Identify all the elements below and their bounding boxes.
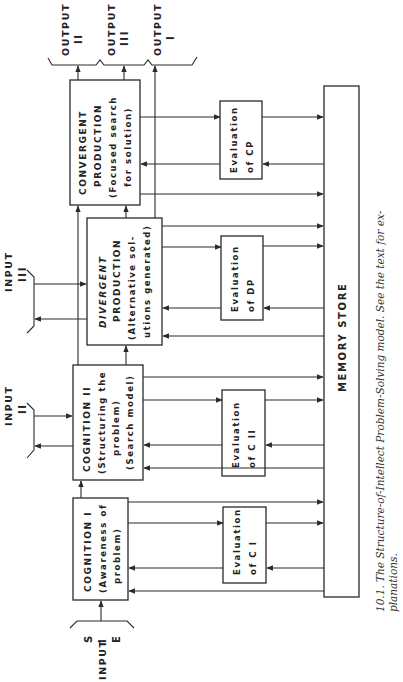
svg-text:E: E [111,635,122,643]
output-iii-label: OUTPUT III [106,3,130,56]
svg-text:CONVERGENT: CONVERGENT [78,110,88,195]
output-ii-label: OUTPUT II [60,3,84,56]
svg-text:Evaluation: Evaluation [229,106,239,173]
svg-text:II: II [17,403,28,414]
svg-text:II: II [73,33,84,44]
input-ii-bracket: INPUT II [3,385,73,458]
svg-text:III: III [119,30,130,46]
evaluation-cp-box: Evaluation of CP [220,101,262,179]
divergent-production-box: DIVERGENT PRODUCTION (Alternative sol- u… [87,218,162,345]
svg-text:(Search model): (Search model) [125,375,135,471]
svg-text:10.1. The Structure-of-Intelle: 10.1. The Structure-of-Intellect Problem… [374,210,386,612]
memory-store-box: MEMORY STORE [324,86,359,597]
output-bracket [48,57,197,65]
svg-text:INPUT: INPUT [3,251,14,292]
svg-text:problem): problem) [111,400,121,456]
svg-text:III: III [17,266,28,282]
svg-text:planations.: planations. [387,553,399,612]
svg-text:of C I: of C I [248,541,258,575]
sip-model-diagram: OUTPUT II OUTPUT III OUTPUT I CONVERGENT… [0,0,403,682]
svg-text:(Structuring the: (Structuring the [97,371,107,474]
svg-text:I: I [165,35,176,40]
svg-text:S: S [83,634,94,643]
evaluation-dp-box: Evaluation of DP [221,236,263,320]
output-i-label: OUTPUT I [152,3,176,56]
svg-text:OUTPUT: OUTPUT [60,3,71,56]
svg-text:Evaluation: Evaluation [232,508,242,575]
svg-text:Evaluation: Evaluation [231,401,241,468]
svg-text:utions generated): utions generated) [142,224,152,338]
svg-text:PRODUCTION: PRODUCTION [93,104,103,187]
svg-text:of DP: of DP [246,278,256,312]
svg-text:MEMORY STORE: MEMORY STORE [337,283,348,392]
svg-text:INPUT: INPUT [3,385,14,426]
cognition-ii-box: COGNITION II (Structuring the problem) (… [73,365,143,480]
svg-text:OUTPUT: OUTPUT [152,3,163,56]
svg-text:of CP: of CP [245,140,255,173]
svg-text:for solution): for solution) [123,107,133,187]
svg-text:COGNITION II: COGNITION II [82,386,92,472]
svg-text:OUTPUT: OUTPUT [106,3,117,56]
input-i-bracket: INPUT S I E [70,601,134,680]
svg-text:(Awareness of: (Awareness of [98,504,108,593]
svg-text:DIVERGENT: DIVERGENT [98,256,108,328]
svg-text:problem): problem) [112,528,122,584]
evaluation-ci-box: Evaluation of C I [223,507,266,583]
convergent-production-box: CONVERGENT PRODUCTION (Focused search fo… [70,80,140,205]
cognition-i-box: COGNITION I (Awareness of problem) [73,498,128,600]
svg-text:PRODUCTION: PRODUCTION [112,239,122,322]
svg-text:COGNITION I: COGNITION I [83,511,93,592]
svg-text:(Focused search: (Focused search [108,96,118,198]
svg-text:Evaluation: Evaluation [230,245,240,312]
svg-text:(Alternative sol-: (Alternative sol- [127,235,137,340]
input-iii-bracket: INPUT III [3,251,87,333]
figure-caption: 10.1. The Structure-of-Intellect Problem… [374,210,399,612]
svg-text:I: I [97,638,108,643]
svg-text:INPUT: INPUT [97,639,108,680]
evaluation-cii-box: Evaluation of C II [222,390,265,476]
svg-text:of C II: of C II [247,429,257,468]
